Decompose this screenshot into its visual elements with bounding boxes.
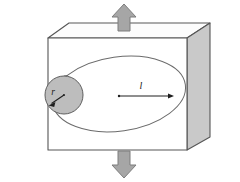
tension-arrow-down — [112, 151, 136, 178]
length-label: l — [140, 80, 143, 91]
arrow-down-shape — [112, 151, 136, 178]
block-right-face — [187, 23, 210, 150]
radius-label: r — [51, 87, 55, 97]
figure-container: r l — [0, 0, 240, 182]
fracture-mechanics-diagram: r l — [0, 0, 240, 182]
length-origin-dot — [118, 95, 120, 97]
